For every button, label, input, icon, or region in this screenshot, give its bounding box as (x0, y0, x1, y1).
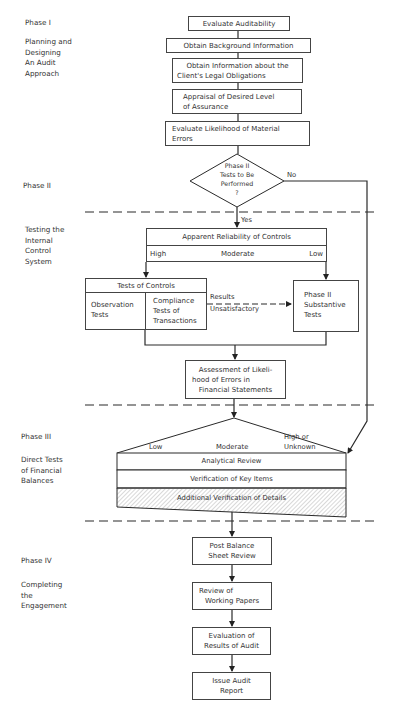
phase-1-desc-line: Designing (25, 48, 72, 59)
phase-2-desc-line: System (25, 257, 64, 268)
phase-3-desc-line: Direct Tests (21, 455, 63, 466)
phase-2-desc-line: Testing the (25, 225, 64, 236)
phase-4-desc-line: Engagement (21, 601, 67, 612)
compliance-line: Compliance (153, 296, 194, 306)
step-issue-audit-report: Issue Audit Report (192, 672, 271, 700)
step-text: Post Balance (210, 541, 255, 551)
row-analytical-review: Analytical Review (117, 456, 346, 466)
step-text: Report (220, 686, 243, 696)
phase3-level-low: Low (149, 442, 162, 452)
phase-3-label: Phase III (21, 432, 51, 443)
step-text: Obtain Background Information (183, 41, 293, 51)
tests-of-controls-title: Tests of Controls (117, 281, 175, 291)
observation-line: Tests (91, 310, 108, 320)
phase-2-description: Testing the Internal Control System (25, 225, 64, 267)
high-line: Unknown (284, 442, 316, 452)
phase-2-desc-line: Control (25, 246, 64, 257)
step-text: of Assurance (183, 102, 228, 112)
phase-3-desc-line: Balances (21, 476, 63, 487)
assessment-line: Assessment of Likeli- (199, 365, 273, 375)
substantive-tests-box: Phase II Substantive Tests (293, 280, 359, 332)
phase3-level-high: High or Unknown (284, 432, 316, 452)
results-unsatisfactory-label: Results Unsatisfactory (210, 292, 259, 314)
step-evaluate-auditability: Evaluate Auditability (188, 16, 290, 31)
assessment-line: hood of Errors in (186, 375, 250, 385)
step-text: Evaluate Auditability (203, 19, 276, 29)
step-text: Obtain Information about the (186, 61, 288, 71)
decision-line: ? (212, 188, 262, 197)
phase-4-description: Completing the Engagement (21, 580, 67, 612)
step-obtain-background: Obtain Background Information (166, 38, 311, 53)
step-text: Review of (193, 586, 233, 596)
decision-line: Phase II (212, 161, 262, 170)
step-text: Results of Audit (204, 641, 259, 651)
assessment-line: Financial Statements (199, 385, 272, 395)
substantive-line: Tests (304, 310, 321, 320)
step-text: Evaluation of (209, 631, 255, 641)
phase-4-label: Phase IV (21, 556, 52, 567)
yes-label: Yes (241, 215, 252, 225)
step-text: Issue Audit (212, 676, 251, 686)
phase-2-desc-line: Internal (25, 236, 64, 247)
phase-1-label: Phase I (25, 18, 51, 29)
observation-line: Observation (91, 300, 134, 310)
substantive-line: Phase II (304, 290, 331, 300)
high-line: High or (284, 432, 316, 442)
step-obtain-legal-info: Obtain Information about the Client's Le… (172, 58, 303, 83)
tests-of-controls-header: Tests of Controls (85, 278, 207, 293)
phase-1-description: Planning and Designing An Audit Approach (25, 37, 72, 79)
decision-line: Tests to Be (212, 170, 262, 179)
observation-tests-box: Observation Tests (85, 292, 146, 330)
step-evaluation-results: Evaluation of Results of Audit (192, 627, 271, 655)
phase-4-desc-line: Completing (21, 580, 67, 591)
step-post-balance-review: Post Balance Sheet Review (192, 537, 272, 565)
assessment-box: Assessment of Likeli- hood of Errors in … (185, 360, 286, 399)
reliability-title-box: Apparent Reliability of Controls (146, 228, 327, 246)
step-text: Errors (172, 134, 193, 144)
results-line: Results (210, 292, 259, 302)
phase3-level-moderate: Moderate (216, 442, 248, 452)
phase-1-desc-line: Approach (25, 69, 72, 80)
phase-4-desc-line: the (21, 591, 67, 602)
phase-2-label: Phase II (23, 181, 51, 192)
no-label: No (287, 170, 296, 180)
phase-1-desc-line: Planning and (25, 37, 72, 48)
step-review-working-papers: Review of Working Papers (192, 582, 272, 610)
row-key-items: Verification of Key Items (117, 474, 346, 484)
compliance-tests-box: Compliance Tests of Transactions (145, 292, 207, 330)
decision-line: Performed (212, 179, 262, 188)
phase-3-description: Direct Tests of Financial Balances (21, 455, 63, 487)
compliance-line: Transactions (153, 316, 197, 326)
step-text: Evaluate Likelihood of Material (172, 124, 280, 134)
reliability-title: Apparent Reliability of Controls (182, 232, 291, 242)
level-low: Low (309, 249, 323, 259)
level-high: High (150, 249, 166, 259)
row-additional-verification: Additional Verification of Details (117, 493, 346, 503)
phase-1-desc-line: An Audit (25, 58, 72, 69)
compliance-line: Tests of (153, 306, 179, 316)
step-text: Working Papers (205, 596, 259, 606)
step-text: Sheet Review (208, 551, 255, 561)
reliability-levels-row: High Moderate Low (146, 245, 327, 262)
results-line: Unsatisfactory (210, 304, 259, 314)
phase-3-desc-line: of Financial (21, 466, 63, 477)
step-text: Appraisal of Desired Level (183, 92, 274, 102)
level-moderate: Moderate (221, 249, 254, 259)
step-text: Client's Legal Obligations (173, 71, 266, 81)
substantive-line: Substantive (304, 300, 346, 310)
decision-text: Phase II Tests to Be Performed ? (212, 161, 262, 197)
step-appraisal-assurance: Appraisal of Desired Level of Assurance (172, 89, 302, 114)
step-evaluate-likelihood: Evaluate Likelihood of Material Errors (165, 121, 310, 146)
